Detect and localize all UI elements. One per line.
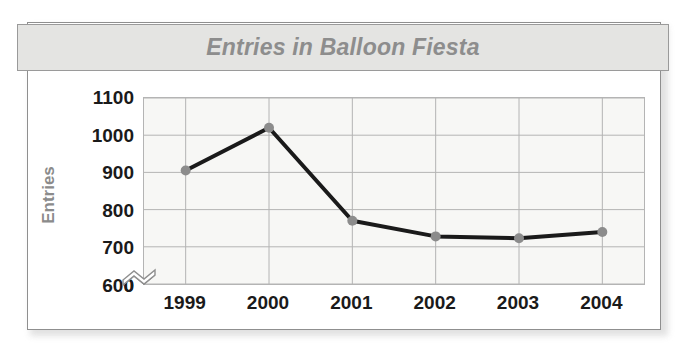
axis-break-icon xyxy=(122,258,156,292)
y-tick-900: 900 xyxy=(102,163,134,182)
x-tick-2002: 2002 xyxy=(414,292,456,314)
data-point-2004 xyxy=(597,227,607,237)
data-series-line xyxy=(186,128,603,238)
chart-figure: Entries in Balloon Fiesta Entries 110010… xyxy=(0,0,685,359)
data-point-1999 xyxy=(181,166,191,176)
x-tick-1999: 1999 xyxy=(164,292,206,314)
x-tick-2001: 2001 xyxy=(330,292,372,314)
y-axis-title-label: Entries xyxy=(39,166,59,224)
chart-title-banner: Entries in Balloon Fiesta xyxy=(17,24,669,71)
y-tick-1100: 1100 xyxy=(93,88,134,107)
y-tick-1000: 1000 xyxy=(92,126,134,145)
data-point-2002 xyxy=(431,231,441,241)
y-tick-800: 800 xyxy=(102,201,134,220)
plot-area xyxy=(143,97,645,285)
x-tick-2004: 2004 xyxy=(580,292,622,314)
plot-svg xyxy=(144,98,644,284)
x-axis-tick-labels: 199920002001200220032004 xyxy=(143,292,645,320)
data-point-2001 xyxy=(347,216,357,226)
x-tick-2003: 2003 xyxy=(497,292,539,314)
y-tick-700: 700 xyxy=(102,238,134,257)
y-axis-title: Entries xyxy=(36,140,62,250)
x-tick-2000: 2000 xyxy=(247,292,289,314)
data-point-2003 xyxy=(514,233,524,243)
data-point-2000 xyxy=(264,123,274,133)
chart-title: Entries in Balloon Fiesta xyxy=(206,34,479,61)
gridlines xyxy=(144,98,644,284)
